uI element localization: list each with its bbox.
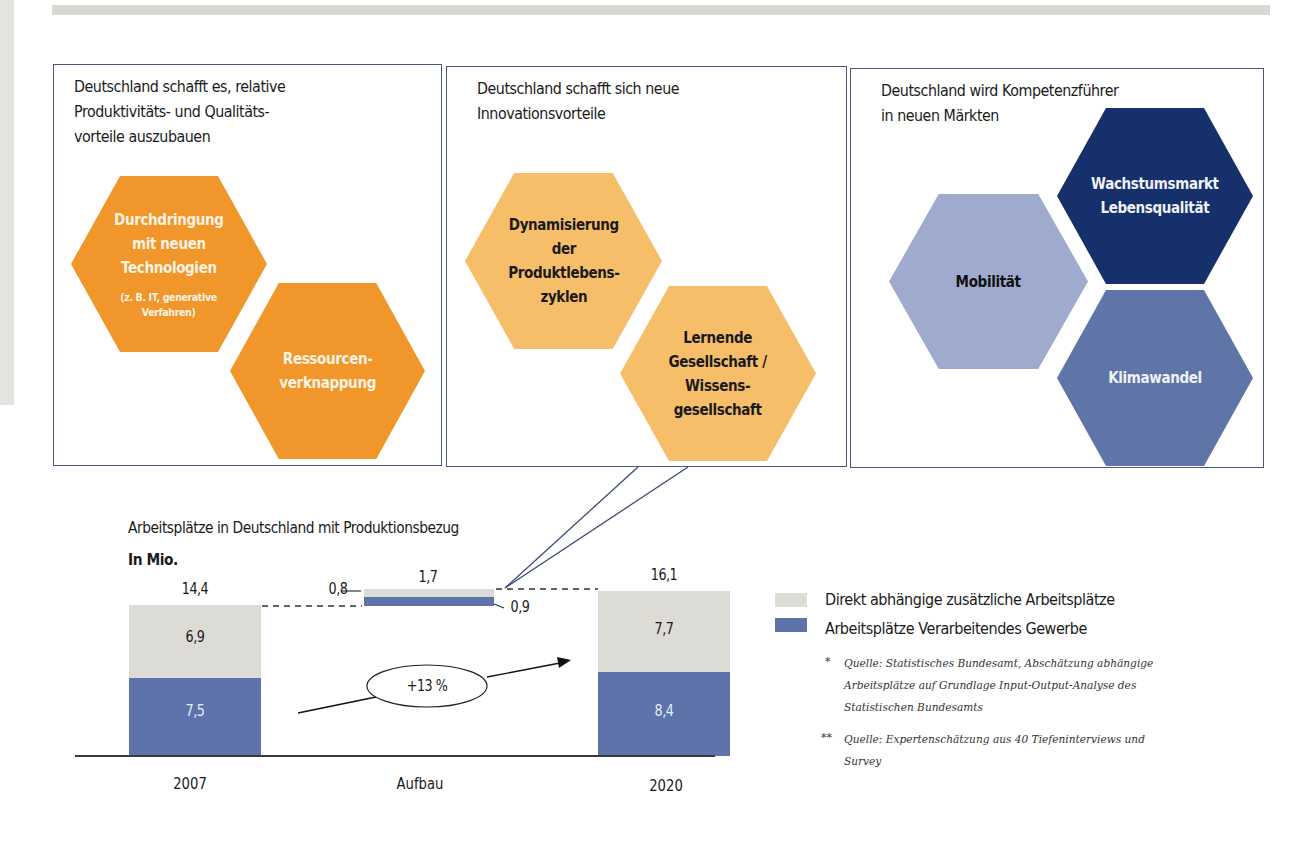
total-2020: 16,1	[639, 566, 690, 584]
category-2007: 2007	[128, 775, 251, 793]
note-source-2: Quelle: Expertenschätzung aus 40 Tiefeni…	[844, 728, 1145, 772]
chart-title: Arbeitsplätze in Deutschland mit Produkt…	[128, 519, 459, 537]
legend-label-dependent: Direkt abhängige zusätzliche Arbeitsplät…	[825, 590, 1115, 609]
note-mark-1: *	[825, 655, 831, 668]
note-source-1: Quelle: Statistisches Bundesamt, Abschät…	[844, 652, 1153, 718]
x-axis	[75, 755, 715, 757]
bar-aufbau-top	[364, 589, 494, 597]
chart-unit: In Mio.	[128, 551, 178, 569]
note-mark-2: **	[821, 731, 832, 744]
value-2020-top: 7,7	[639, 620, 690, 638]
legend-swatch-blue	[775, 618, 807, 632]
legend-swatch-grey	[775, 593, 807, 607]
total-aufbau: 1,7	[403, 568, 454, 586]
growth-label: +13 %	[397, 677, 457, 695]
value-2007-top: 6,9	[170, 628, 221, 646]
total-2007: 14,4	[170, 580, 221, 598]
value-aufbau-top: 0,8	[321, 580, 355, 598]
category-2020: 2020	[604, 777, 727, 795]
bar-aufbau-bottom	[364, 597, 494, 606]
category-aufbau: Aufbau	[358, 775, 481, 793]
value-2020-bottom: 8,4	[639, 702, 690, 720]
value-2007-bottom: 7,5	[170, 702, 221, 720]
legend-label-manufacturing: Arbeitsplätze Verarbeitendes Gewerbe	[825, 619, 1087, 638]
value-aufbau-bottom: 0,9	[503, 598, 537, 616]
